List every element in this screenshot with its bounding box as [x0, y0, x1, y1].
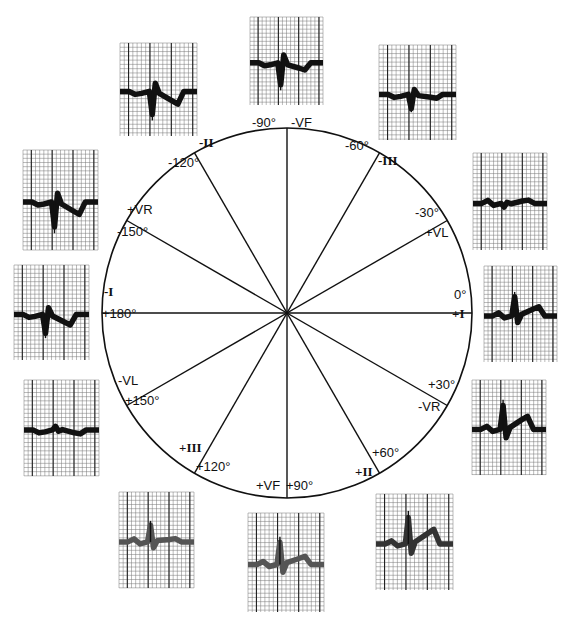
label-deg-m120: -120° [168, 156, 199, 169]
label-lead-pvf: +VF [256, 479, 280, 492]
label-lead-mii: -II [199, 136, 213, 149]
strip-plus-iii [119, 492, 194, 588]
strip-minus-vr [472, 380, 546, 475]
label-lead-mi: -I [104, 285, 113, 298]
strip-plus-vl [473, 153, 547, 250]
label-deg-m150: -150° [117, 225, 148, 238]
strip-minus-i [14, 265, 89, 360]
label-lead-pvl: +VL [425, 226, 449, 239]
label-deg-p30: +30° [428, 378, 455, 391]
strip-plus-i [484, 266, 557, 362]
label-deg-p60: +60° [372, 446, 399, 459]
label-lead-pi: +I [452, 307, 464, 320]
label-deg-m60: -60° [345, 139, 369, 152]
hexaxial-circle [102, 128, 472, 498]
strip-minus-vl [24, 380, 99, 476]
label-deg-p120: +120° [196, 460, 230, 473]
label-deg-p90: +90° [286, 479, 313, 492]
label-lead-mvf: -VF [291, 116, 312, 129]
label-deg-p180: +180° [102, 307, 136, 320]
label-lead-mvr: -VR [418, 400, 440, 413]
label-lead-miii: -III [378, 154, 398, 167]
strip-plus-vr [23, 150, 98, 250]
label-deg-0: 0° [454, 288, 466, 301]
label-lead-pvr: +VR [127, 203, 153, 216]
label-deg-m30: -30° [415, 206, 439, 219]
label-lead-pii: +II [355, 465, 373, 478]
label-lead-piii: +III [179, 441, 202, 454]
label-deg-m90: -90° [252, 116, 276, 129]
hexaxial-diagram [0, 0, 573, 621]
strip-minus-vf [250, 17, 323, 105]
label-lead-mvl: -VL [118, 374, 138, 387]
strip-minus-ii [120, 43, 197, 136]
strip-plus-ii [376, 494, 453, 590]
strip-minus-iii [379, 45, 456, 140]
label-deg-p150: +150° [125, 394, 159, 407]
strip-plus-vf [248, 513, 324, 612]
